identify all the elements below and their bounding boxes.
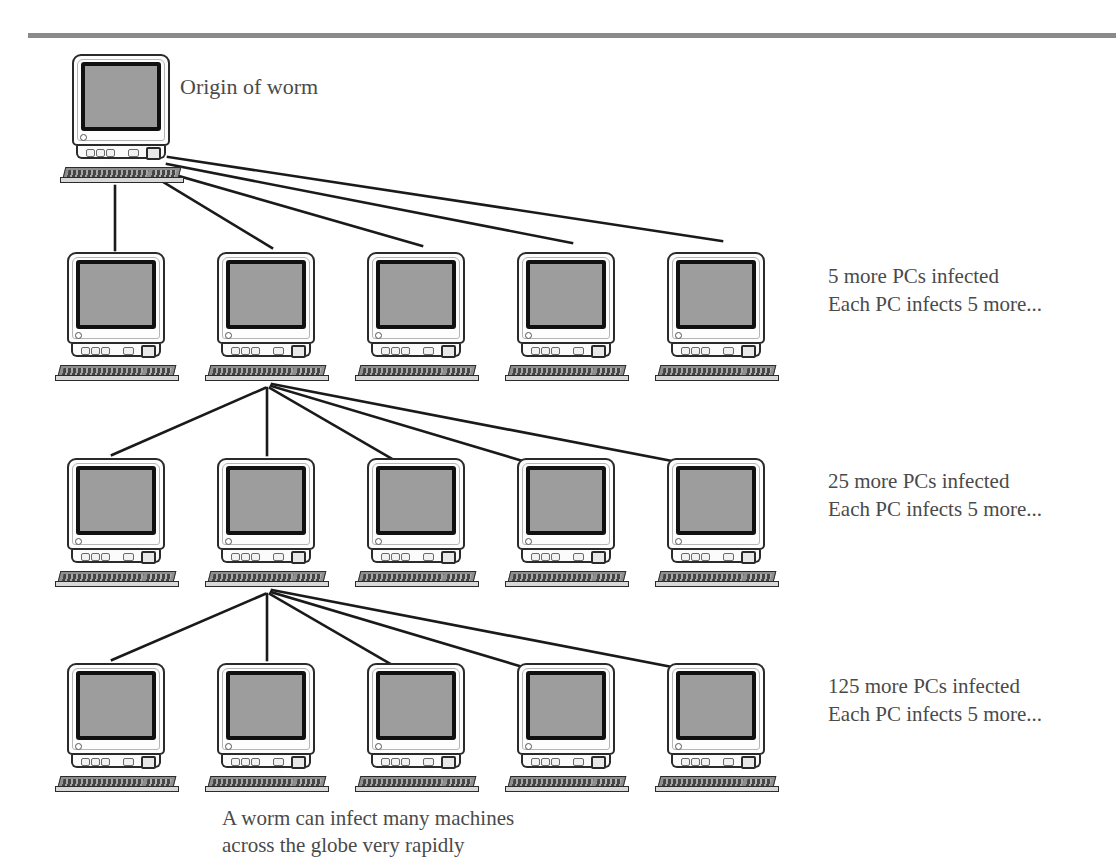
keyboard-icon: [355, 365, 479, 382]
monitor-controls: [221, 755, 311, 768]
keyboard-icon: [355, 571, 479, 588]
power-led-icon: [375, 743, 382, 750]
keyboard-icon: [655, 571, 779, 588]
desktop-computer-icon-l2n0: [55, 458, 179, 588]
monitor-controls: [221, 550, 311, 563]
desktop-computer-icon-l2n1: [205, 458, 329, 588]
level-2-fanout-text: Each PC infects 5 more...: [828, 495, 1042, 523]
infection-edge-L2N1-L3N0: [112, 594, 265, 660]
keyboard-icon: [355, 776, 479, 793]
infection-edge-L1N1-L2N0: [112, 388, 265, 455]
monitor-screen: [526, 671, 606, 740]
power-led-icon: [675, 538, 682, 545]
keyboard-icon: [505, 365, 629, 382]
power-led-icon: [525, 332, 532, 339]
infection-edge-L0N0-L1N1: [160, 180, 272, 248]
monitor-screen: [376, 260, 456, 329]
power-led-icon: [375, 538, 382, 545]
desktop-computer-icon-l2n3: [505, 458, 629, 588]
monitor-controls: [371, 550, 461, 563]
keyboard-icon: [205, 365, 329, 382]
keyboard-icon: [505, 571, 629, 588]
monitor-screen: [226, 260, 306, 329]
power-led-icon: [375, 332, 382, 339]
desktop-computer-icon-l2n4: [655, 458, 779, 588]
power-led-icon: [80, 134, 87, 141]
monitor-controls: [671, 344, 761, 357]
origin-of-worm-label: Origin of worm: [180, 74, 318, 100]
infection-edge-L0N0-L1N2: [165, 172, 422, 246]
monitor-screen: [676, 671, 756, 740]
monitor-screen: [676, 260, 756, 329]
power-led-icon: [75, 538, 82, 545]
monitor-screen: [376, 671, 456, 740]
desktop-computer-icon-l3n0: [55, 663, 179, 793]
diagram-caption: A worm can infect many machines across t…: [222, 805, 514, 859]
monitor-controls: [71, 755, 161, 768]
level-3-count-text: 125 more PCs infected: [828, 672, 1042, 700]
power-led-icon: [525, 743, 532, 750]
power-led-icon: [225, 743, 232, 750]
keyboard-icon: [205, 776, 329, 793]
desktop-computer-icon-l3n4: [655, 663, 779, 793]
infection-edge-L0N0-L1N4: [168, 157, 722, 241]
top-horizontal-rule: [28, 33, 1116, 38]
power-led-icon: [675, 743, 682, 750]
monitor-controls: [521, 550, 611, 563]
infection-edge-L0N0-L1N3: [167, 164, 572, 243]
power-led-icon: [225, 538, 232, 545]
monitor-controls: [671, 755, 761, 768]
keyboard-icon: [55, 571, 179, 588]
monitor-screen: [76, 260, 156, 329]
monitor-screen: [81, 62, 161, 131]
monitor-screen: [526, 260, 606, 329]
keyboard-icon: [55, 776, 179, 793]
power-led-icon: [525, 538, 532, 545]
desktop-computer-icon-l1n3: [505, 252, 629, 382]
keyboard-icon: [655, 776, 779, 793]
monitor-screen: [226, 671, 306, 740]
monitor-controls: [371, 344, 461, 357]
desktop-computer-icon-l1n4: [655, 252, 779, 382]
desktop-computer-icon-l3n3: [505, 663, 629, 793]
power-led-icon: [675, 332, 682, 339]
level-1-label: 5 more PCs infectedEach PC infects 5 mor…: [828, 262, 1042, 318]
monitor-screen: [376, 466, 456, 535]
level-3-label: 125 more PCs infectedEach PC infects 5 m…: [828, 672, 1042, 728]
level-3-fanout-text: Each PC infects 5 more...: [828, 700, 1042, 728]
monitor-controls: [521, 344, 611, 357]
keyboard-icon: [505, 776, 629, 793]
desktop-computer-icon-l0n0: [60, 54, 184, 184]
keyboard-icon: [205, 571, 329, 588]
level-2-count-text: 25 more PCs infected: [828, 467, 1042, 495]
level-2-label: 25 more PCs infectedEach PC infects 5 mo…: [828, 467, 1042, 523]
power-led-icon: [75, 332, 82, 339]
desktop-computer-icon-l1n0: [55, 252, 179, 382]
power-led-icon: [225, 332, 232, 339]
monitor-controls: [71, 550, 161, 563]
monitor-controls: [71, 344, 161, 357]
monitor-screen: [76, 671, 156, 740]
monitor-controls: [521, 755, 611, 768]
desktop-computer-icon-l3n2: [355, 663, 479, 793]
monitor-screen: [76, 466, 156, 535]
monitor-screen: [676, 466, 756, 535]
caption-line-1: A worm can infect many machines: [222, 805, 514, 832]
level-1-fanout-text: Each PC infects 5 more...: [828, 290, 1042, 318]
monitor-controls: [371, 755, 461, 768]
desktop-computer-icon-l2n2: [355, 458, 479, 588]
keyboard-icon: [655, 365, 779, 382]
monitor-screen: [226, 466, 306, 535]
caption-line-2: across the globe very rapidly: [222, 832, 514, 859]
keyboard-icon: [60, 167, 184, 184]
desktop-computer-icon-l3n1: [205, 663, 329, 793]
power-led-icon: [75, 743, 82, 750]
monitor-controls: [76, 146, 166, 159]
monitor-controls: [671, 550, 761, 563]
desktop-computer-icon-l1n2: [355, 252, 479, 382]
worm-propagation-diagram: Origin of worm 5 more PCs infectedEach P…: [0, 0, 1116, 859]
monitor-screen: [526, 466, 606, 535]
desktop-computer-icon-l1n1: [205, 252, 329, 382]
level-1-count-text: 5 more PCs infected: [828, 262, 1042, 290]
monitor-controls: [221, 344, 311, 357]
